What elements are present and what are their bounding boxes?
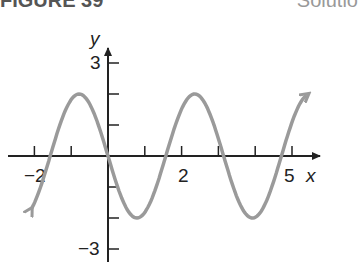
y-tick-label-neg3: −3 xyxy=(78,238,100,259)
x-tick-label-5: 5 xyxy=(284,165,295,186)
x-tick-label-2: 2 xyxy=(178,165,189,186)
y-axis-title: y xyxy=(88,28,101,49)
x-axis-title: x xyxy=(305,165,317,186)
x-ticks xyxy=(34,146,292,156)
y-tick-label-3: 3 xyxy=(90,52,101,73)
